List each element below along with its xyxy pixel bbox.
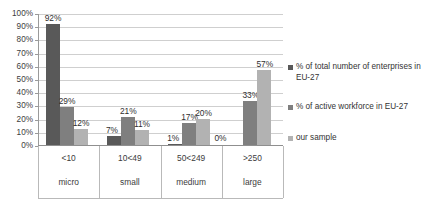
bar-value-label: 21% [120,107,137,116]
legend-swatch-icon [288,105,293,110]
category-divider [161,146,162,198]
legend-entry[interactable]: % of active workforce in EU-27 [288,102,408,113]
category-axis-cell: 10<49small [99,146,160,198]
bar-group: 0%33%57% [222,14,283,145]
y-axis-tick-label: 90% [17,23,33,31]
y-axis-tick-label: 10% [17,129,33,137]
bar-value-label: 0% [214,134,226,143]
bar [257,70,271,145]
y-axis-tick-label: 80% [17,36,33,44]
category-name-label: micro [38,177,99,187]
category-size-label: 50<249 [161,153,222,163]
category-name-label: small [99,177,160,187]
category-name-label: medium [161,177,222,187]
category-divider [283,146,284,198]
bar-group: 92%29%12% [38,14,99,145]
plot-area: 92%29%12%7%21%11%1%17%20%0%33%57% [38,14,283,146]
bar [107,136,121,145]
bar-value-label: 57% [256,60,273,69]
bar [74,129,88,145]
y-axis-tick-label: 70% [17,50,33,58]
bar-value-label: 92% [45,14,62,23]
bar-value-label: 11% [134,120,150,129]
category-name-label: large [222,177,283,187]
y-axis: 0%10%20%30%40%50%60%70%80%90%100% [0,14,36,146]
bar-value-label: 29% [59,97,76,106]
bar [46,24,60,145]
legend-swatch-icon [288,65,293,70]
category-axis-cell: >250large [222,146,283,198]
legend-entry[interactable]: % of total number of enterprises in EU-2… [288,62,428,83]
bar-value-label: 7% [106,126,118,135]
bar [243,101,257,145]
bar-group: 1%17%20% [161,14,222,145]
category-size-label: 10<49 [99,153,160,163]
bar-value-label: 12% [73,119,90,128]
category-axis: <10micro10<49small50<249medium>250large [38,146,283,199]
category-axis-cell: 50<249medium [161,146,222,198]
y-axis-tick-label: 60% [17,63,33,71]
y-axis-tick-label: 50% [17,76,33,84]
y-axis-tick-label: 100% [12,10,33,18]
legend-swatch-icon [288,136,293,141]
category-divider [38,146,39,198]
bar-value-label: 1% [167,134,179,143]
bar [182,123,196,145]
bar [168,144,182,145]
grouped-bar-chart: 0%10%20%30%40%50%60%70%80%90%100% 92%29%… [0,0,432,211]
legend-entry[interactable]: our sample [288,133,337,144]
bar-group: 7%21%11% [99,14,160,145]
bar-value-label: 20% [195,109,212,118]
bar [60,107,74,145]
bar [121,117,135,145]
bar [196,119,210,145]
y-axis-tick-label: 40% [17,89,33,97]
y-axis-tick-label: 20% [17,116,33,124]
bar [135,130,149,145]
y-axis-tick-label: 0% [21,142,33,150]
legend-label: our sample [296,133,337,144]
legend-label: % of total number of enterprises in EU-2… [296,62,428,83]
category-divider [99,146,100,198]
category-size-label: <10 [38,153,99,163]
legend-label: % of active workforce in EU-27 [296,102,408,113]
category-size-label: >250 [222,153,283,163]
category-axis-cell: <10micro [38,146,99,198]
category-divider [222,146,223,198]
y-axis-tick-label: 30% [17,102,33,110]
